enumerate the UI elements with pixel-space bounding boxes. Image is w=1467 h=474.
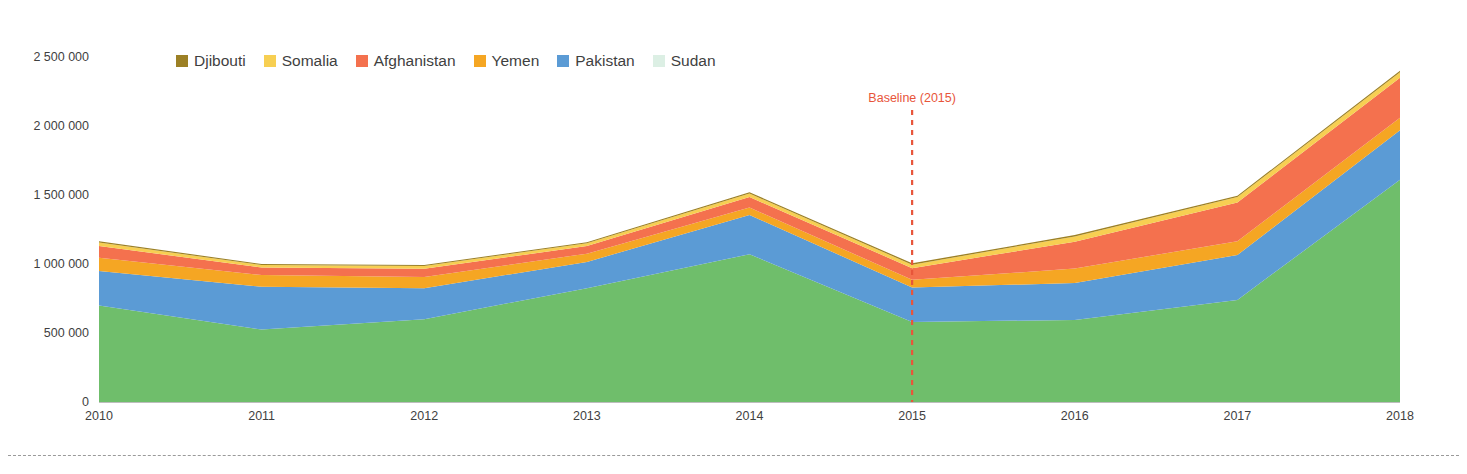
- footer-divider: [8, 455, 1459, 456]
- baseline-annotation-label: Baseline (2015): [868, 91, 956, 105]
- stacked-area-chart: DjiboutiSomaliaAfghanistanYemenPakistanS…: [0, 0, 1467, 474]
- plot-area: [0, 0, 1467, 474]
